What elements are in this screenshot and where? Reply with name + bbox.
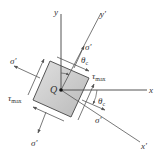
sigma-arrow-bottom [38,112,46,133]
x-axis-label: x [148,85,153,95]
origin-label: Q [50,84,58,95]
tau-max-label-right: τmax [92,71,106,82]
sigma-label-bottom: σ' [31,138,38,148]
sigma-label-right: σ' [95,115,102,125]
y-axis-label: y [53,7,58,17]
origin-point [59,88,63,92]
sigma-label-top: σ' [85,42,92,52]
theta-label-right: θc [98,96,105,107]
y-prime-axis-label: y' [99,9,107,19]
sigma-label-left: σ' [10,56,17,66]
theta-label-top: θc [81,55,88,66]
tau-max-label-left: τmax [8,93,22,104]
angle-arc-right [93,90,97,104]
stress-element-diagram: y y' x x' Q σ' σ' σ' σ' θc θc τmax τmax [0,0,163,151]
x-prime-axis-label: x' [140,141,148,151]
